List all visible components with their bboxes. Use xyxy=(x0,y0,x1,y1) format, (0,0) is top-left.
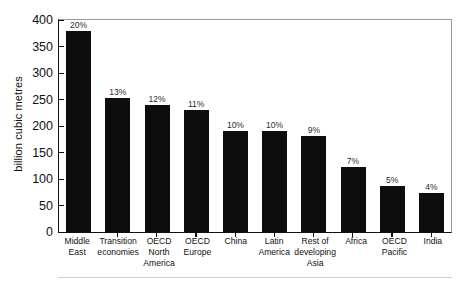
y-axis-tick-label: 50 xyxy=(39,199,59,213)
bar-slot: 11% xyxy=(177,20,216,232)
bar-value-label: 9% xyxy=(308,125,320,135)
x-axis-category-label: China xyxy=(217,236,255,269)
plot-area: 050100150200250300350400 20%13%12%11%10%… xyxy=(58,19,452,233)
bar-value-label: 5% xyxy=(386,175,398,185)
x-axis-category-label: India xyxy=(414,236,452,269)
x-axis-category-label-line: North xyxy=(141,247,177,258)
x-axis-category-label: Transitioneconomies xyxy=(96,236,140,269)
x-axis-category-label-line: India xyxy=(415,236,451,247)
y-axis-tick-label: 400 xyxy=(32,13,59,27)
x-axis-category-label: MiddleEast xyxy=(58,236,96,269)
bar-series: 20%13%12%11%10%10%9%7%5%4% xyxy=(59,20,451,232)
y-axis-tick-label: 100 xyxy=(32,172,59,186)
x-axis-category-labels: MiddleEastTransitioneconomiesOECDNorthAm… xyxy=(58,236,452,269)
bar: 10% xyxy=(262,131,287,232)
bar-slot: 4% xyxy=(412,20,451,232)
bar: 7% xyxy=(341,167,366,232)
bar-slot: 12% xyxy=(137,20,176,232)
bar-value-label: 11% xyxy=(188,99,204,109)
bar-slot: 13% xyxy=(98,20,137,232)
x-axis-category-label: Africa xyxy=(337,236,375,269)
bar: 12% xyxy=(145,105,170,232)
x-axis-category-label-line: America xyxy=(141,258,177,269)
bar-value-label: 20% xyxy=(70,20,87,30)
figure-bottom-rule xyxy=(58,277,452,278)
bar-slot: 5% xyxy=(373,20,412,232)
x-axis-category-label: LatinAmerica xyxy=(255,236,293,269)
x-axis-category-label-line: economies xyxy=(97,247,139,258)
y-axis-title: billion cubic metres xyxy=(12,44,24,204)
bar: 5% xyxy=(380,186,405,232)
bar-slot: 7% xyxy=(333,20,372,232)
x-axis-category-label-line: Transition xyxy=(97,236,139,247)
y-axis-tick-label: 250 xyxy=(32,93,59,107)
x-axis-category-label-line: OECD xyxy=(141,236,177,247)
x-axis-category-label-line: Asia xyxy=(294,258,336,269)
bar: 9% xyxy=(301,136,326,232)
x-axis-category-label-line: OECD xyxy=(179,236,215,247)
bar-value-label: 10% xyxy=(266,120,283,130)
bar-value-label: 10% xyxy=(227,120,244,130)
x-axis-category-label-line: China xyxy=(218,236,254,247)
x-axis-category-label: OECDPacific xyxy=(375,236,413,269)
bar-slot: 20% xyxy=(59,20,98,232)
bar-value-label: 12% xyxy=(148,94,165,104)
y-axis-tick-label: 300 xyxy=(32,66,59,80)
x-axis-category-label: Rest ofdevelopingAsia xyxy=(293,236,337,269)
bar: 4% xyxy=(419,193,444,232)
bar-slot: 10% xyxy=(216,20,255,232)
bar-slot: 9% xyxy=(294,20,333,232)
x-axis-category-label-line: Rest of xyxy=(294,236,336,247)
bar-value-label: 4% xyxy=(425,182,437,192)
y-axis-tick-label: 200 xyxy=(32,119,59,133)
x-axis-category-label-line: developing xyxy=(294,247,336,258)
x-axis-category-label-line: Europe xyxy=(179,247,215,258)
x-axis-category-label-line: Middle xyxy=(59,236,95,247)
bar: 13% xyxy=(105,98,130,232)
bar-chart-figure: billion cubic metres 0501001502002503003… xyxy=(0,0,467,285)
x-axis-category-label-line: OECD xyxy=(376,236,412,247)
x-axis-category-label-line: America xyxy=(256,247,292,258)
x-axis-category-label-line: Pacific xyxy=(376,247,412,258)
bar: 11% xyxy=(184,110,209,232)
x-axis-category-label: OECDEurope xyxy=(178,236,216,269)
bar-value-label: 13% xyxy=(109,87,126,97)
x-axis-category-label-line: East xyxy=(59,247,95,258)
y-axis-tick-label: 150 xyxy=(32,146,59,160)
x-axis-category-label-line: Africa xyxy=(338,236,374,247)
x-axis-category-label-line: Latin xyxy=(256,236,292,247)
bar-value-label: 7% xyxy=(347,156,359,166)
x-axis-category-label: OECDNorthAmerica xyxy=(140,236,178,269)
bar: 10% xyxy=(223,131,248,232)
bar: 20% xyxy=(66,31,91,232)
bar-slot: 10% xyxy=(255,20,294,232)
y-axis-tick-label: 350 xyxy=(32,40,59,54)
